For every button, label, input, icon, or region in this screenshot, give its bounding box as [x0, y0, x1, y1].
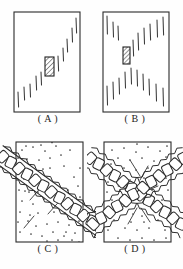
- panel-b-caption: ( B ): [87, 113, 183, 124]
- panel-d: ( D ): [87, 132, 183, 250]
- panel-b: ( B ): [87, 0, 183, 120]
- panel-b-hatched-block: [123, 47, 130, 64]
- panel-c-caption: ( C ): [0, 243, 96, 254]
- panel-a-drawing: [0, 0, 96, 120]
- panel-c: ( C ): [0, 132, 96, 250]
- panel-a-caption: ( A ): [0, 113, 96, 124]
- figure-root: ( A ): [0, 0, 183, 269]
- panel-d-drawing: [87, 132, 183, 250]
- panel-d-caption: ( D ): [87, 243, 183, 254]
- panel-b-drawing: [87, 0, 183, 120]
- panel-c-drawing: [0, 132, 96, 250]
- panel-a-hatched-block: [45, 57, 54, 76]
- panel-a: ( A ): [0, 0, 96, 120]
